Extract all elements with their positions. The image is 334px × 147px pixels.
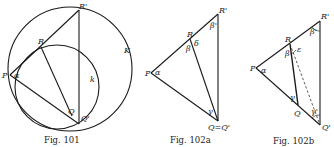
label-K: K: [123, 46, 131, 55]
figures-canvas: P α R R' Q Q' K k Fig. 101 P α R β δ R' …: [0, 0, 334, 147]
caption-fig-102a: Fig. 102a: [170, 135, 211, 145]
label-Rp: R': [218, 6, 227, 15]
label-Rp: R': [78, 2, 87, 11]
line-R-QQp: [190, 39, 218, 121]
label-gammap: γ': [311, 107, 318, 116]
label-P: P: [1, 71, 8, 80]
fig-102b: P α R β ε R' β' γ Q γ' Q' Fig. 102b: [249, 12, 331, 146]
label-k: k: [90, 75, 95, 84]
line-P-Qp: [10, 75, 79, 124]
label-epsilon: ε: [297, 45, 301, 54]
label-alpha: α: [155, 68, 161, 77]
caption-fig-101: Fig. 101: [44, 135, 80, 145]
label-gamma: γ: [208, 107, 213, 116]
label-delta: δ: [194, 39, 199, 48]
line-P-Rp: [151, 14, 218, 73]
line-R-Q: [41, 47, 72, 116]
label-R: R: [186, 30, 193, 39]
label-beta: β: [284, 49, 290, 58]
line-P-Qp: [256, 68, 320, 125]
fig-101: P α R R' Q Q' K k Fig. 101: [1, 2, 132, 145]
label-QQp: Q=Q': [208, 123, 230, 132]
label-betap: β': [309, 27, 317, 36]
label-gamma: γ: [290, 93, 295, 102]
fig-102a: P α R β δ R' β' γ Q=Q' Fig. 102a: [144, 6, 230, 145]
label-Qp: Q': [322, 123, 331, 132]
label-Qp: Q': [81, 114, 90, 123]
label-betap: β': [209, 21, 217, 30]
label-beta: β: [185, 44, 191, 53]
caption-fig-102b: Fig. 102b: [273, 136, 315, 146]
label-alpha: α: [261, 66, 267, 75]
label-P: P: [249, 64, 256, 73]
label-R: R: [284, 35, 291, 44]
label-P: P: [144, 69, 151, 78]
label-Q: Q: [294, 109, 301, 118]
label-alpha: α: [14, 71, 20, 80]
line-P-Rp: [10, 10, 79, 75]
label-R: R: [37, 37, 44, 46]
label-Rp: R': [320, 12, 329, 21]
label-Q: Q: [68, 107, 75, 116]
